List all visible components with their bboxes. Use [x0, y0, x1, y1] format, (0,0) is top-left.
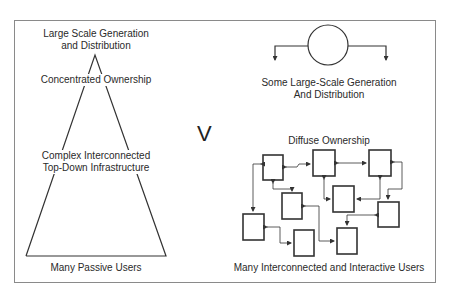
user-node	[313, 150, 335, 176]
versus-symbol: V	[197, 123, 212, 145]
infra-label-line1: Complex Interconnected	[36, 150, 156, 162]
user-node	[294, 230, 314, 256]
user-node	[369, 150, 391, 176]
left-generation-label-line1: Large Scale Generation	[32, 28, 160, 40]
left-generation-label: Large Scale Generation and Distribution	[32, 28, 160, 52]
user-node	[337, 228, 357, 254]
user-node	[333, 186, 354, 212]
infra-label-line2: Top-Down Infrastructure	[36, 162, 156, 174]
user-network	[243, 150, 402, 256]
user-node	[378, 202, 399, 227]
some-large-scale-generation-label: Some Large-Scale Generation And Distribu…	[255, 77, 403, 101]
interactive-users-label: Many Interconnected and Interactive User…	[224, 262, 434, 274]
user-node	[282, 193, 302, 219]
right-generation-label-line1: Some Large-Scale Generation	[255, 77, 403, 89]
right-generation-label-line2: And Distribution	[255, 89, 403, 101]
top-down-infrastructure-label: Complex Interconnected Top-Down Infrastr…	[36, 150, 156, 174]
user-node	[243, 214, 264, 240]
diffuse-ownership-label: Diffuse Ownership	[280, 135, 378, 147]
passive-users-label: Many Passive Users	[36, 262, 156, 274]
left-generation-label-line2: and Distribution	[32, 40, 160, 52]
central-generation-icon	[275, 25, 386, 65]
concentrated-ownership-label: Concentrated Ownership	[36, 74, 156, 86]
user-node	[263, 155, 283, 180]
